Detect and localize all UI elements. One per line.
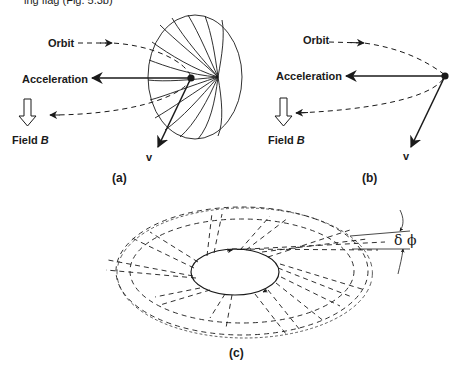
orbit-label-a: Orbit [48,37,75,49]
orbit-label-b: Orbit [303,34,330,46]
panel-b: Orbit Acceleration Field B v (b) [268,34,449,185]
velocity-arrow-b [411,76,445,147]
caption-c: (c) [229,346,244,360]
header-partial-text: ing flag (Fig. 5.3b) [24,0,113,6]
field-b-arrow-b [275,98,292,126]
delta-phi-label: δ ϕ [394,232,416,248]
velocity-arrow-a [158,78,191,147]
velocity-label-a: v [146,151,153,163]
panel-a: Orbit Acceleration Field B v (a) [12,15,242,185]
orbit-ellipse-c [191,249,279,295]
particle-b [441,72,448,79]
field-label-b: Field B [268,134,305,146]
velocity-label-b: v [403,150,410,162]
orbit-path-a [78,43,191,77]
particle-a [187,74,194,81]
diagram-svg: ing flag (Fig. 5.3b) [0,0,461,371]
orbit-return-b [296,79,443,113]
acceleration-label-a: Acceleration [22,73,88,85]
figure-canvas: ing flag (Fig. 5.3b) [0,0,461,371]
caption-b: (b) [362,171,377,185]
acceleration-label-b: Acceleration [276,70,342,82]
caption-a: (a) [112,171,127,185]
field-b-arrow-a [19,99,36,126]
panel-c: δ ϕ (c) [106,207,416,360]
radiation-lobe [148,15,242,139]
orbit-path-b [329,42,445,75]
field-label-a: Field B [12,134,49,146]
